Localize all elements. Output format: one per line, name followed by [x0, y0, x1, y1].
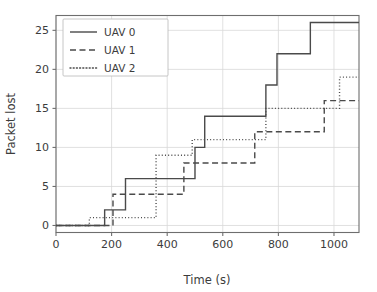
chart-legend: UAV 0UAV 1UAV 2	[63, 19, 168, 76]
y-tick-label: 5	[42, 180, 49, 193]
legend-label-uav-1: UAV 1	[104, 44, 135, 56]
packet-lost-line-chart: 02004006008001000 0510152025 Time (s) Pa…	[0, 0, 377, 292]
x-tick-label: 600	[212, 238, 233, 251]
y-axis-tick-labels: 0510152025	[35, 24, 49, 232]
chart-figure: 02004006008001000 0510152025 Time (s) Pa…	[0, 0, 377, 292]
x-tick-label: 1000	[320, 238, 348, 251]
y-tick-label: 0	[42, 219, 49, 232]
x-axis-title: Time (s)	[183, 273, 231, 287]
series-line-uav-1	[56, 101, 359, 226]
x-tick-label: 800	[268, 238, 289, 251]
y-tick-label: 15	[35, 102, 49, 115]
y-tick-label: 20	[35, 63, 49, 76]
legend-label-uav-0: UAV 0	[104, 26, 135, 38]
series-line-uav-2	[56, 77, 359, 225]
x-tick-label: 0	[53, 238, 60, 251]
x-axis-tick-labels: 02004006008001000	[53, 238, 348, 251]
y-tick-label: 10	[35, 141, 49, 154]
x-tick-label: 400	[157, 238, 178, 251]
legend-label-uav-2: UAV 2	[104, 62, 135, 74]
y-tick-label: 25	[35, 24, 49, 37]
y-axis-title: Packet lost	[4, 93, 18, 156]
x-tick-label: 200	[101, 238, 122, 251]
